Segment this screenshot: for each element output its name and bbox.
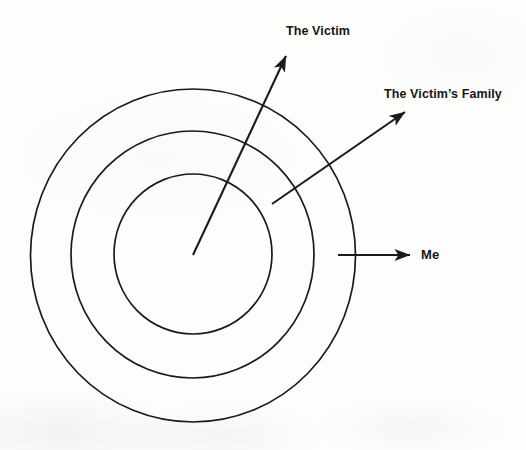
outer-ring	[31, 89, 356, 422]
arrow-to-victim-family	[272, 112, 405, 204]
arrow-to-victim	[193, 56, 286, 255]
label-me: Me	[421, 248, 439, 261]
diagram-canvas: The Victim The Victim’s Family Me	[0, 0, 526, 450]
label-the-victims-family: The Victim’s Family	[384, 88, 502, 101]
label-the-victim: The Victim	[286, 25, 350, 38]
concentric-circles-diagram	[0, 0, 526, 450]
